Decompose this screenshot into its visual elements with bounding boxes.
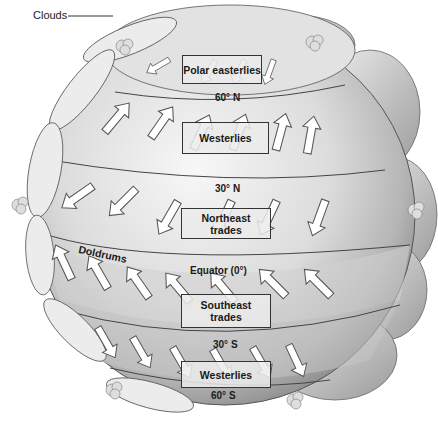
circulation-diagram: Clouds Polar easterlies 60° N Westerlies…: [0, 0, 438, 430]
latitude-60n: 60° N: [215, 92, 240, 103]
westerlies-north-text: Westerlies: [199, 132, 251, 144]
polar-easterlies-text: Polar easterlies: [183, 64, 261, 76]
southeast-trades-line2: trades: [210, 311, 242, 323]
northeast-trades-line1: Northeast: [201, 212, 250, 224]
clouds-label: Clouds: [33, 9, 67, 21]
westerlies-south-text: Westerlies: [200, 369, 252, 381]
northeast-trades-label: Northeast trades: [181, 208, 271, 239]
northeast-trades-line2: trades: [210, 224, 242, 236]
latitude-30n: 30° N: [215, 183, 240, 194]
latitude-60s: 60° S: [211, 390, 236, 401]
westerlies-north-label: Westerlies: [182, 122, 269, 154]
equator-label: Equator (0°): [190, 265, 247, 276]
latitude-30s: 30° S: [213, 339, 238, 350]
southeast-trades-line1: Southeast: [201, 299, 252, 311]
polar-easterlies-label: Polar easterlies: [182, 55, 262, 84]
westerlies-south-label: Westerlies: [181, 361, 271, 388]
southeast-trades-label: Southeast trades: [181, 294, 271, 328]
